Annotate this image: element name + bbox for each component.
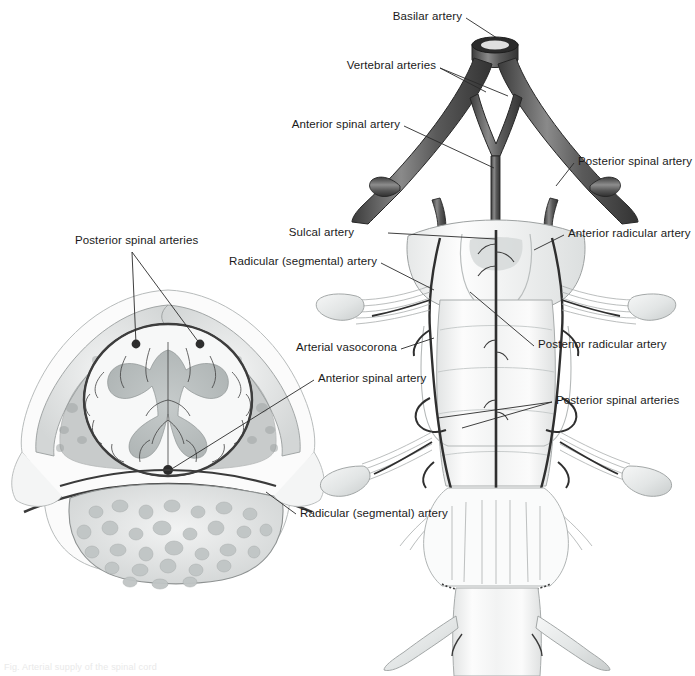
vertebral-artery-left	[352, 58, 492, 224]
lower-spinal-cord	[453, 588, 542, 676]
label-radicular-segmental-artery-bottom: Radicular (segmental) artery	[300, 508, 448, 520]
label-sulcal-artery: Sulcal artery	[289, 227, 354, 239]
vertebral-artery-right	[498, 58, 638, 224]
figure-caption: Fig. Arterial supply of the spinal cord	[4, 662, 157, 672]
dorsal-root-ganglion-lower-right	[622, 466, 672, 496]
label-anterior-radicular-artery: Anterior radicular artery	[568, 228, 691, 240]
anterior-view	[316, 37, 676, 676]
nerve-root-lower-right	[536, 616, 610, 671]
anterior-spinal-artery-junction	[470, 94, 522, 156]
label-vertebral-arteries: Vertebral arteries	[347, 60, 436, 72]
dorsal-root-ganglion-upper-right	[628, 294, 676, 320]
label-basilar-artery: Basilar artery	[393, 11, 462, 23]
dorsal-root-ganglion-lower-left	[320, 466, 370, 496]
label-posterior-spinal-artery: Posterior spinal artery	[578, 156, 692, 168]
cross-section-view	[12, 290, 325, 589]
label-anterior-spinal-artery-top: Anterior spinal artery	[292, 119, 400, 131]
label-arterial-vasocorona: Arterial vasocorona	[296, 342, 397, 354]
label-posterior-spinal-arteries-right: Posterior spinal arteries	[556, 395, 679, 407]
label-posterior-radicular-artery: Posterior radicular artery	[538, 339, 667, 351]
nerve-root-lower-left	[384, 616, 458, 671]
basilar-artery-lumen-inner	[481, 41, 509, 50]
leader-arterial-vasocorona	[401, 338, 434, 349]
leader-posterior-spinal-artery	[556, 163, 574, 186]
dorsal-root-ganglion-upper-left	[316, 294, 364, 320]
figure-canvas: Basilar artery Vertebral arteries Anteri…	[0, 0, 695, 676]
leader-basilar-artery	[466, 18, 500, 40]
label-radicular-segmental-artery-top: Radicular (segmental) artery	[229, 256, 377, 268]
label-anterior-spinal-artery-left: Anterior spinal artery	[318, 373, 426, 385]
label-posterior-spinal-arteries-left: Posterior spinal arteries	[75, 235, 198, 247]
